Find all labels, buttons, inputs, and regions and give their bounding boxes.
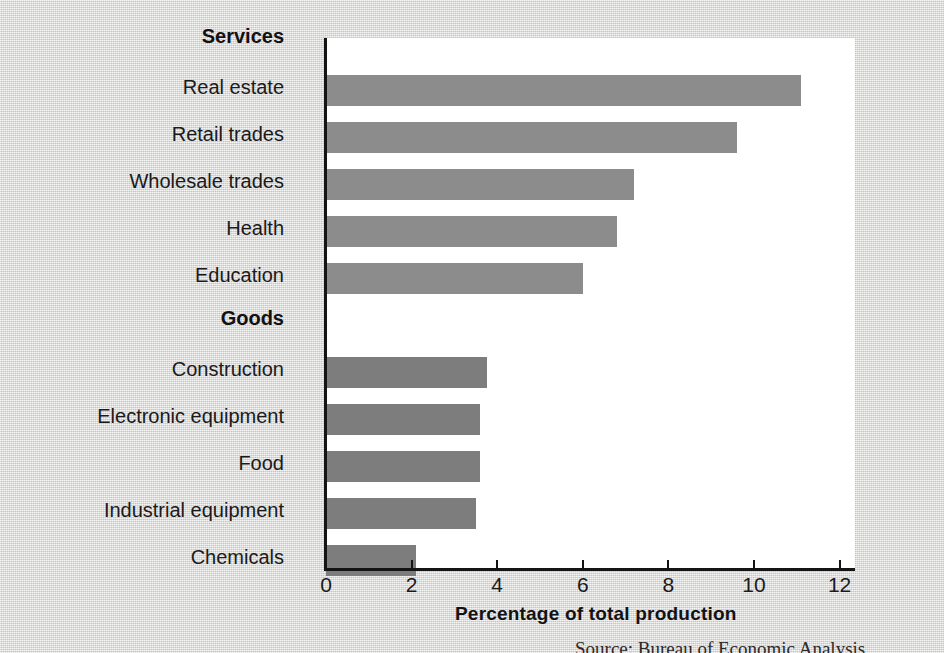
x-tick-mark — [839, 560, 841, 571]
bar — [326, 357, 487, 388]
bar — [326, 498, 476, 529]
x-axis-line — [324, 568, 855, 571]
bar — [326, 404, 480, 435]
bar — [326, 75, 801, 106]
x-tick-mark — [582, 560, 584, 571]
x-tick-label: 8 — [648, 573, 688, 597]
source-note: Source: Bureau of Economic Analysis — [575, 638, 865, 653]
y-axis-line — [324, 38, 327, 570]
bar — [326, 451, 480, 482]
x-tick-mark — [325, 560, 327, 571]
bar — [326, 545, 416, 576]
bar — [326, 216, 617, 247]
category-label: Real estate — [0, 76, 284, 99]
bar-chart-figure: ServicesReal estateRetail tradesWholesal… — [0, 0, 944, 653]
category-label: Health — [0, 217, 284, 240]
x-tick-mark — [411, 560, 413, 571]
category-label: Retail trades — [0, 123, 284, 146]
bar — [326, 122, 737, 153]
x-tick-label: 10 — [734, 573, 774, 597]
category-label: Food — [0, 452, 284, 475]
group-label-goods: Goods — [0, 307, 284, 330]
plot-area — [326, 38, 855, 568]
category-label: Wholesale trades — [0, 170, 284, 193]
x-tick-label: 6 — [563, 573, 603, 597]
category-label: Chemicals — [0, 546, 284, 569]
group-label-services: Services — [0, 25, 284, 48]
x-tick-mark — [753, 560, 755, 571]
category-label: Electronic equipment — [0, 405, 284, 428]
bar — [326, 169, 634, 200]
category-label: Education — [0, 264, 284, 287]
category-label: Industrial equipment — [0, 499, 284, 522]
x-tick-label: 4 — [477, 573, 517, 597]
x-tick-label: 0 — [306, 573, 346, 597]
x-tick-mark — [496, 560, 498, 571]
category-label: Construction — [0, 358, 284, 381]
x-tick-mark — [667, 560, 669, 571]
x-axis-title: Percentage of total production — [455, 603, 737, 625]
x-tick-label: 2 — [392, 573, 432, 597]
x-tick-label: 12 — [820, 573, 860, 597]
bar — [326, 263, 583, 294]
